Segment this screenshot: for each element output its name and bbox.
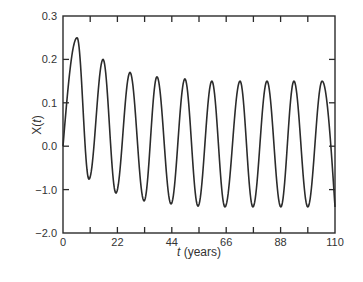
- y-axis-label-prefix: X(: [30, 123, 44, 135]
- data-line-x-of-t: [63, 38, 335, 207]
- x-tick-label: 22: [111, 236, 123, 248]
- x-axis-label: t (years): [177, 245, 221, 259]
- y-axis-label: X(t): [30, 115, 44, 134]
- x-tick-label: 66: [220, 236, 232, 248]
- x-tick-label: 0: [60, 236, 66, 248]
- y-tick-label: 0.3: [42, 10, 57, 22]
- y-tick-label: 0.2: [42, 53, 57, 65]
- y-tick-label: −2.0: [35, 227, 57, 239]
- x-tick-label: 110: [326, 236, 344, 248]
- y-axis-label-suffix: ): [30, 115, 44, 119]
- line-chart: 0.30.20.10.0−1.0−2.0 022446688110 t (yea…: [0, 0, 363, 282]
- y-tick-label: −1.0: [35, 184, 57, 196]
- axis-ticks: [63, 16, 335, 233]
- x-tick-label: 88: [274, 236, 286, 248]
- x-axis-label-unit: (years): [180, 245, 221, 259]
- y-tick-label: 0.0: [42, 140, 57, 152]
- y-tick-label: 0.1: [42, 97, 57, 109]
- plot-frame: [63, 16, 335, 233]
